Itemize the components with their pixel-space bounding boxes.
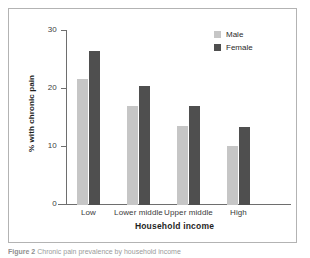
bar-group (177, 30, 200, 205)
bar-female-high[interactable] (239, 127, 250, 205)
x-axis-title: Household income (58, 221, 291, 231)
x-axis-tick-label: High (199, 208, 279, 217)
bar-female-low[interactable] (89, 51, 100, 205)
plot-area: 0102030 % with chronic pain LowLower mid… (9, 9, 298, 244)
bar-female-upper-middle[interactable] (189, 106, 200, 205)
figure-caption-text: Chronic pain prevalence by household inc… (37, 248, 181, 255)
bar-male-lower-middle[interactable] (127, 106, 138, 205)
bar-male-upper-middle[interactable] (177, 126, 188, 205)
chart-legend: MaleFemale (214, 29, 253, 55)
legend-swatch-icon (214, 44, 221, 51)
figure-caption: Figure 2 Chronic pain prevalence by hous… (8, 248, 298, 256)
bar-male-low[interactable] (77, 79, 88, 205)
figure-frame: 0102030 % with chronic pain LowLower mid… (8, 8, 297, 243)
bar-group (227, 30, 250, 205)
bar-group (77, 30, 100, 205)
legend-label: Female (226, 44, 253, 52)
bar-group (127, 30, 150, 205)
legend-item-female[interactable]: Female (214, 42, 253, 53)
figure-caption-label: Figure 2 (8, 248, 35, 255)
legend-swatch-icon (214, 31, 221, 38)
bar-female-lower-middle[interactable] (139, 86, 150, 205)
legend-label: Male (226, 31, 243, 39)
bar-male-high[interactable] (227, 146, 238, 205)
legend-item-male[interactable]: Male (214, 29, 253, 40)
